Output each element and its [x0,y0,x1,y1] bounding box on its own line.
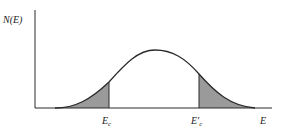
ecp-label: E′c [190,115,203,128]
distribution-chart: N(E) E Ec E′c [0,0,289,129]
y-axis-label: N(E) [2,14,23,26]
right-tail-shaded-region [199,74,255,108]
ec-label: Ec [101,115,112,128]
x-axis-label: E [259,115,266,126]
left-tail-shaded-region [55,82,109,108]
